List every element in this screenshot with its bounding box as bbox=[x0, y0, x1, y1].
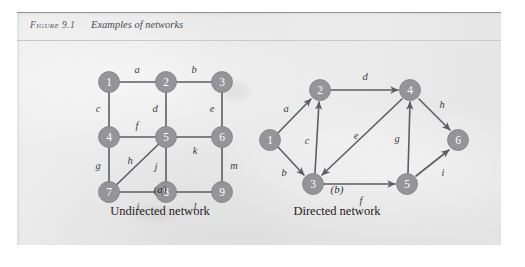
edge-g bbox=[408, 102, 410, 173]
panel-letter-b: (b) bbox=[307, 183, 367, 195]
figure-title: Examples of networks bbox=[91, 19, 183, 30]
edge-c bbox=[315, 102, 319, 173]
edge-label-b: b bbox=[281, 167, 286, 178]
node-2: 2 bbox=[310, 80, 331, 101]
edge-label-e: e bbox=[354, 130, 359, 141]
directed-nodes: 1 2 3 4 5 6 bbox=[260, 80, 469, 195]
undirected-network-diagram: a b c d e f g h j k m i l 1 2 3 bbox=[69, 48, 269, 223]
node-label: 6 bbox=[219, 131, 225, 143]
header-rule-bottom bbox=[17, 40, 501, 41]
edge-e bbox=[322, 99, 402, 175]
edge-label-f: f bbox=[136, 120, 141, 131]
edge-label-a: a bbox=[283, 103, 288, 114]
node-6: 6 bbox=[448, 130, 469, 151]
edge-label-c: c bbox=[305, 135, 310, 146]
edge-label-m: m bbox=[230, 160, 238, 171]
node-label: 5 bbox=[404, 178, 410, 190]
node-label: 4 bbox=[106, 131, 112, 143]
node-4: 4 bbox=[400, 80, 421, 101]
edge-label-d: d bbox=[152, 103, 158, 114]
node-label: 5 bbox=[163, 131, 169, 143]
figure-header: Figure 9.1 Examples of networks bbox=[17, 12, 501, 41]
caption-directed-network: Directed network bbox=[247, 204, 427, 219]
node-1: 1 bbox=[99, 72, 120, 93]
node-5: 5 bbox=[397, 174, 418, 195]
edge-label-b: b bbox=[191, 64, 196, 75]
node-label: 4 bbox=[407, 84, 413, 96]
edge-label-g: g bbox=[95, 160, 100, 171]
node-9: 9 bbox=[212, 182, 233, 203]
header-rule-top bbox=[17, 12, 501, 13]
figure-panel: Figure 9.1 Examples of networks a b c d … bbox=[17, 12, 501, 245]
edge-label-h: h bbox=[439, 99, 444, 110]
edge-label-e: e bbox=[210, 103, 215, 114]
edge-label-k: k bbox=[193, 145, 198, 156]
node-label: 6 bbox=[455, 134, 461, 146]
edge-label-g: g bbox=[394, 133, 399, 144]
node-3: 3 bbox=[212, 72, 233, 93]
edge-label-h: h bbox=[127, 155, 132, 166]
caption-undirected-network: Undirected network bbox=[70, 204, 250, 219]
node-6: 6 bbox=[212, 127, 233, 148]
edge-label-d: d bbox=[362, 71, 368, 82]
node-4: 4 bbox=[99, 127, 120, 148]
directed-network-diagram: a b c d e f g h i 1 2 3 bbox=[245, 48, 485, 223]
panel-letter-a: (a) bbox=[130, 183, 190, 195]
edge-label-j: j bbox=[153, 161, 158, 172]
node-label: 7 bbox=[106, 186, 112, 198]
figure-number-label: Figure 9.1 bbox=[30, 20, 75, 30]
node-label: 3 bbox=[219, 76, 225, 88]
node-2: 2 bbox=[156, 72, 177, 93]
node-label: 2 bbox=[317, 84, 323, 96]
edge-label-c: c bbox=[96, 103, 101, 114]
edge-label-i: i bbox=[442, 167, 445, 178]
node-label: 9 bbox=[219, 186, 225, 198]
node-label: 1 bbox=[106, 76, 112, 88]
node-1: 1 bbox=[260, 130, 281, 151]
node-label: 2 bbox=[163, 76, 169, 88]
node-7: 7 bbox=[99, 182, 120, 203]
node-label: 1 bbox=[267, 134, 273, 146]
node-5: 5 bbox=[156, 127, 177, 148]
edge-h bbox=[419, 99, 450, 130]
edge-label-a: a bbox=[134, 64, 139, 75]
